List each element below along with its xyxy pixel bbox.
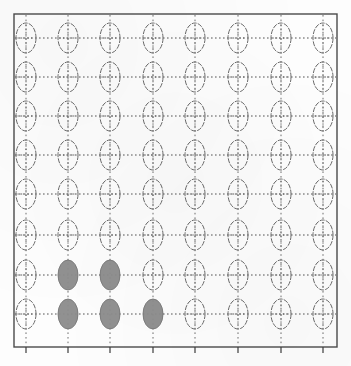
figure-canvas xyxy=(0,0,351,366)
ellipse-glyph-filled-r8-c3 xyxy=(100,299,120,329)
ellipse-glyph-filled-r8-c2 xyxy=(58,299,78,329)
ellipse-glyph-filled-r7-c2 xyxy=(58,260,78,290)
ellipse-glyph-filled-r7-c3 xyxy=(100,260,120,290)
glyph-cell-r8-c4 xyxy=(143,299,163,329)
ellipse-glyph-filled-r8-c4 xyxy=(143,299,163,329)
figure-background xyxy=(0,0,351,366)
glyph-cell-r8-c2 xyxy=(58,299,78,329)
ellipse-grid-figure xyxy=(0,0,351,366)
glyph-cell-r7-c3 xyxy=(100,260,120,290)
glyph-cell-r7-c2 xyxy=(58,260,78,290)
glyph-cell-r8-c3 xyxy=(100,299,120,329)
